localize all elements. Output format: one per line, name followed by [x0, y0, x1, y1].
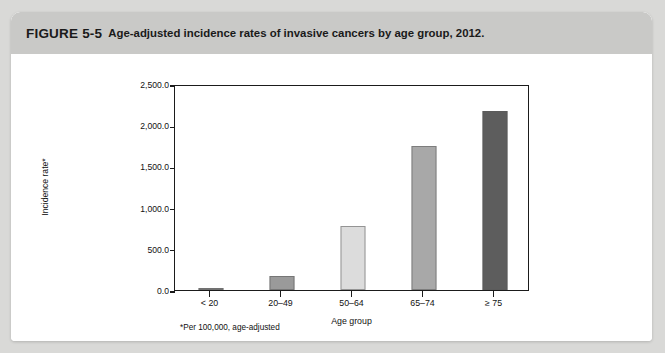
figure-caption-label: Age-adjusted incidence rates of invasive…: [108, 27, 484, 39]
y-axis-tick-label: 1,000.0: [140, 204, 169, 214]
bar[interactable]: [340, 226, 365, 290]
x-axis-tick-label: ≥ 75: [458, 298, 529, 308]
chart-body: Incidence rate* 0.0500.01,000.01,500.02,…: [11, 54, 652, 341]
figure-card: FIGURE 5-5 Age-adjusted incidence rates …: [11, 12, 652, 341]
figure-title-banner: FIGURE 5-5 Age-adjusted incidence rates …: [11, 12, 652, 54]
y-axis-tick-mark: [170, 250, 175, 251]
x-axis-tick-label: 65–74: [387, 298, 458, 308]
y-axis-tick-mark: [170, 85, 175, 86]
bar-slot: [317, 86, 388, 290]
bar[interactable]: [482, 111, 507, 290]
y-axis-tick-label: 2,500.0: [140, 80, 169, 90]
bar[interactable]: [198, 288, 223, 290]
x-axis-tick-mark: [493, 291, 494, 297]
bar[interactable]: [411, 146, 436, 290]
x-axis-tick-marks: [174, 291, 529, 297]
y-axis-tick-label: 500.0: [147, 245, 169, 255]
figure-footnote: *Per 100,000, age-adjusted: [180, 323, 280, 332]
y-axis-tick-label: 0.0: [157, 286, 169, 296]
y-axis-tick-mark: [170, 209, 175, 210]
y-axis-tick-label: 2,000.0: [140, 121, 169, 131]
x-axis-tick-labels: < 2020–4950–6465–74≥ 75: [174, 298, 529, 312]
bar-slot: [459, 86, 530, 290]
bar-slot: [388, 86, 459, 290]
x-axis-tick-mark: [351, 291, 352, 297]
figure-number-label: FIGURE 5-5: [26, 26, 102, 41]
y-axis-tick-label: 1,500.0: [140, 162, 169, 172]
bar-slot: [175, 86, 246, 290]
y-axis-tick-mark: [170, 127, 175, 128]
y-axis-tick-labels: 0.0500.01,000.01,500.02,000.02,500.0: [115, 85, 169, 291]
y-axis-tick-mark: [170, 168, 175, 169]
x-axis-tick-label: 50–64: [316, 298, 387, 308]
x-axis-tick-mark: [422, 291, 423, 297]
plot-area: [174, 85, 529, 291]
bar[interactable]: [269, 276, 294, 290]
x-axis-tick-label: < 20: [174, 298, 245, 308]
x-axis-tick-label: 20–49: [245, 298, 316, 308]
bars-layer: [175, 86, 528, 290]
bar-slot: [246, 86, 317, 290]
x-axis-tick-mark: [280, 291, 281, 297]
y-axis-title: Incidence rate*: [40, 127, 50, 247]
x-axis-tick-mark: [209, 291, 210, 297]
